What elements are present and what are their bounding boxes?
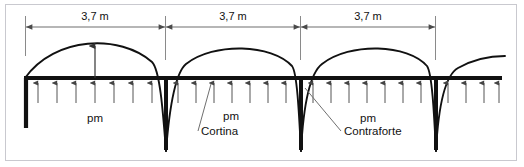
leader-lines [198, 84, 341, 131]
load-arrows-pm [38, 83, 499, 103]
part-label-contraforte: Contraforte [344, 125, 402, 137]
load-label-pm-3: pm [360, 112, 376, 124]
load-label-pm-1: pm [87, 112, 103, 124]
dimension-extension-lines [26, 16, 436, 60]
dimension-label-span-1: 3,7 m [81, 10, 109, 22]
load-label-pm-2: pm [223, 110, 239, 122]
structural-diagram: 3,7 m 3,7 m 3,7 m [0, 0, 524, 167]
part-label-cortina: Cortina [201, 125, 239, 137]
dimension-chain: 3,7 m 3,7 m 3,7 m [26, 10, 435, 27]
leader-line-cortina [198, 84, 211, 131]
leader-line-contraforte [305, 88, 341, 131]
dimension-label-span-2: 3,7 m [219, 10, 247, 22]
cortina-curve [25, 43, 505, 151]
dimension-label-span-3: 3,7 m [354, 10, 382, 22]
diagram-root: 3,7 m 3,7 m 3,7 m [0, 0, 524, 167]
